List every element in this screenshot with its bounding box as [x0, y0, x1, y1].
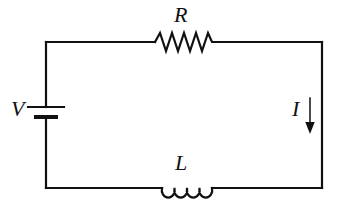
inductor-coil [162, 188, 213, 198]
voltage-source-label: V [11, 98, 24, 120]
circuit-diagram-canvas: R L V I [0, 0, 337, 205]
inductor-label: L [175, 152, 187, 174]
current-arrow-head [305, 122, 314, 134]
resistor-label: R [174, 4, 187, 26]
resistor-zigzag [155, 33, 215, 51]
current-label: I [292, 98, 299, 120]
circuit-schematic-svg [0, 0, 337, 205]
